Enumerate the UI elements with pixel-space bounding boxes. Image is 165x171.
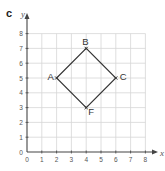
y-axis-label: y <box>20 9 25 19</box>
x-axis-label: x <box>159 148 164 158</box>
coordinate-grid-figure: xy 012345678012345678 ABCF <box>0 0 165 171</box>
vertex-label-a: A <box>48 71 55 82</box>
tick-labels: 012345678012345678 <box>19 30 147 163</box>
y-tick-label: 0 <box>19 149 23 156</box>
x-tick-label: 7 <box>129 156 133 163</box>
y-tick-label: 3 <box>19 104 23 111</box>
x-axis-arrow-icon <box>152 150 158 155</box>
x-tick-label: 8 <box>144 156 148 163</box>
vertex-label-f: F <box>88 106 94 117</box>
y-tick-label: 2 <box>19 119 23 126</box>
x-tick-label: 6 <box>114 156 118 163</box>
y-tick-label: 7 <box>19 45 23 52</box>
x-tick-label: 5 <box>99 156 103 163</box>
y-tick-label: 1 <box>19 134 23 141</box>
x-tick-label: 1 <box>40 156 44 163</box>
y-axis-arrow-icon <box>25 13 30 19</box>
x-tick-label: 0 <box>25 156 29 163</box>
vertex-label-c: C <box>120 71 127 82</box>
x-tick-label: 3 <box>70 156 74 163</box>
vertex-label-b: B <box>82 36 88 47</box>
grid-lines <box>27 34 145 152</box>
y-tick-label: 6 <box>19 60 23 67</box>
x-tick-label: 2 <box>55 156 59 163</box>
y-tick-label: 5 <box>19 75 23 82</box>
y-tick-label: 4 <box>19 89 23 96</box>
y-tick-label: 8 <box>19 30 23 37</box>
x-tick-label: 4 <box>84 156 88 163</box>
